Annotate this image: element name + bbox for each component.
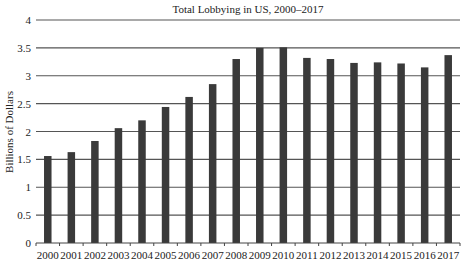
y-tick-label: 4: [26, 14, 32, 26]
bar-2003: [115, 128, 123, 243]
x-tick-label: 2007: [202, 249, 225, 261]
x-tick-label: 2001: [60, 249, 82, 261]
x-tick-label: 2008: [225, 249, 248, 261]
bar-2004: [138, 120, 146, 243]
y-tick-label: 3.5: [17, 42, 31, 54]
bar-2001: [68, 152, 76, 243]
x-tick-label: 2014: [367, 249, 390, 261]
bar-chart: Total Lobbying in US, 2000–2017 00.511.5…: [0, 0, 469, 266]
x-tick-label: 2015: [390, 249, 413, 261]
y-tick-label: 2.5: [17, 98, 31, 110]
y-tick-label: 0.5: [17, 209, 31, 221]
y-axis-label: Billions of Dollars: [3, 91, 15, 173]
bar-2002: [91, 141, 99, 243]
bar-2008: [232, 59, 240, 243]
bar-2014: [374, 62, 382, 243]
gridlines: [36, 20, 460, 215]
x-axis: 2000200120022003200420052006200720082009…: [36, 243, 460, 261]
bar-2017: [444, 55, 452, 243]
x-tick-label: 2006: [178, 249, 201, 261]
x-tick-label: 2010: [272, 249, 295, 261]
bar-2005: [162, 107, 170, 243]
y-tick-label: 3: [26, 70, 32, 82]
y-tick-label: 0: [26, 237, 32, 249]
bar-2011: [303, 58, 311, 243]
bar-2015: [397, 63, 405, 243]
chart-title: Total Lobbying in US, 2000–2017: [172, 3, 324, 15]
x-tick-label: 2013: [343, 249, 366, 261]
x-tick-label: 2003: [107, 249, 130, 261]
x-tick-label: 2017: [437, 249, 460, 261]
y-tick-label: 1.5: [17, 153, 31, 165]
x-tick-label: 2005: [155, 249, 178, 261]
bar-2016: [421, 67, 429, 243]
x-tick-label: 2016: [414, 249, 437, 261]
bars: [44, 47, 452, 243]
x-tick-label: 2002: [84, 249, 106, 261]
bar-2007: [209, 84, 217, 243]
x-tick-label: 2012: [319, 249, 341, 261]
x-tick-label: 2004: [131, 249, 154, 261]
y-tick-label: 2: [26, 126, 32, 138]
bar-2012: [327, 59, 335, 243]
x-tick-label: 2011: [296, 249, 318, 261]
bar-2006: [185, 97, 193, 243]
bar-2000: [44, 156, 52, 243]
bar-2010: [280, 47, 288, 243]
bar-2013: [350, 63, 358, 243]
bar-2009: [256, 48, 264, 243]
y-axis-ticks: 00.511.522.533.54: [17, 14, 31, 249]
y-tick-label: 1: [26, 181, 32, 193]
x-tick-label: 2009: [249, 249, 272, 261]
x-tick-label: 2000: [37, 249, 60, 261]
